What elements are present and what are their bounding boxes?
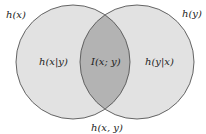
label-joint: h(x, y) bbox=[91, 122, 123, 133]
venn-diagram: h(x) h(y) h(x|y) I(x; y) h(y|x) h(x, y) bbox=[0, 0, 206, 134]
label-hy-given-x: h(y|x) bbox=[145, 56, 174, 68]
label-hx-given-y: h(x|y) bbox=[39, 56, 68, 68]
label-mutual-info: I(x; y) bbox=[90, 56, 121, 67]
label-hy: h(y) bbox=[182, 8, 202, 19]
label-hx: h(x) bbox=[6, 9, 26, 20]
